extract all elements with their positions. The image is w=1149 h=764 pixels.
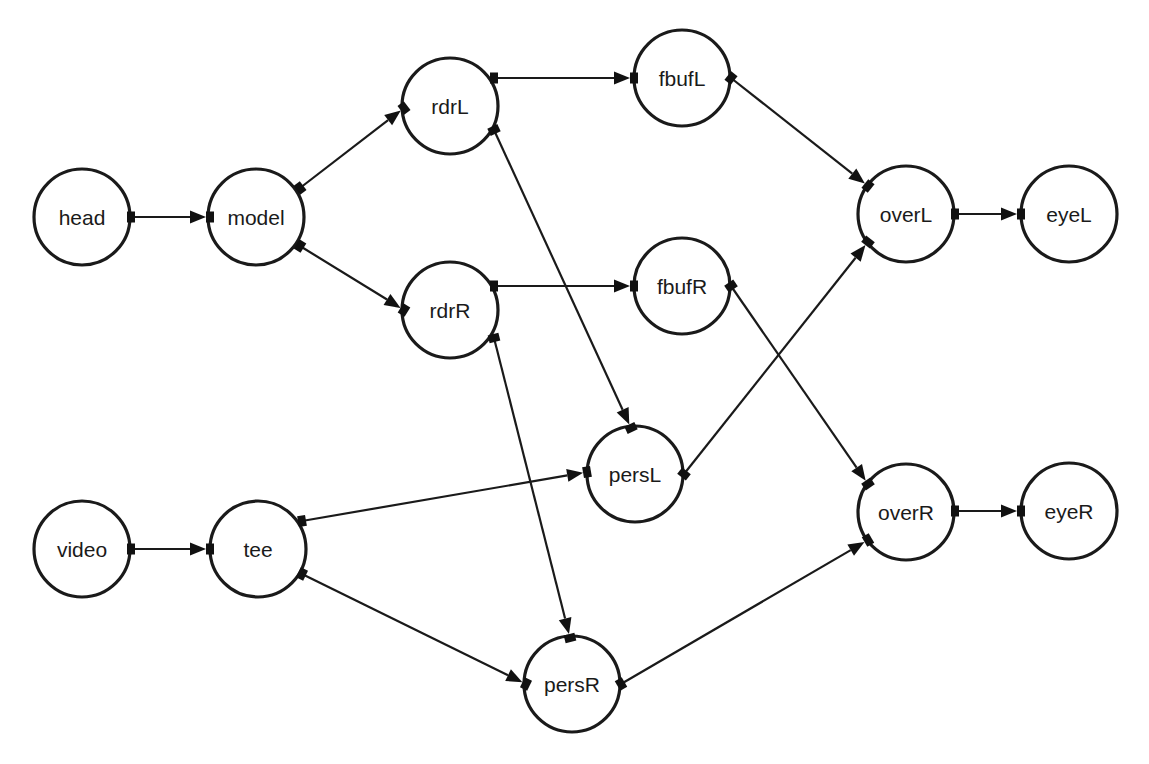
node-persR[interactable]: persR	[524, 636, 620, 732]
node-label: overR	[878, 501, 934, 524]
edge-line	[621, 550, 851, 684]
node-label: eyeL	[1046, 203, 1092, 226]
node-label: overL	[880, 203, 933, 226]
arrowhead-icon	[614, 280, 630, 293]
input-port-tee	[206, 544, 214, 555]
edge-persR-to-overR	[621, 542, 865, 684]
node-overL[interactable]: overL	[858, 166, 954, 262]
edge-tee-to-persL	[302, 469, 583, 521]
arrowhead-icon	[851, 464, 865, 481]
arrowhead-icon	[848, 169, 865, 184]
arrowhead-icon	[847, 542, 864, 556]
output-port-rdrL	[490, 73, 498, 84]
output-port-video	[127, 544, 135, 555]
arrowhead-icon	[617, 407, 630, 424]
arrowhead-icon	[1001, 208, 1017, 221]
arrowhead-icon	[559, 617, 572, 634]
arrowhead-icon	[190, 211, 206, 224]
node-eyeL[interactable]: eyeL	[1021, 166, 1117, 262]
edge-overR-to-eyeR	[955, 505, 1017, 518]
edge-video-to-tee	[131, 543, 206, 556]
edge-line	[731, 78, 852, 174]
edge-fbufL-to-overL	[731, 78, 865, 184]
edge-model-to-rdrR	[300, 246, 401, 308]
edge-line	[494, 130, 623, 410]
node-label: rdrL	[431, 95, 468, 118]
dataflow-diagram: headmodelrdrLrdrRfbufLfbufRpersLpersRove…	[0, 0, 1149, 764]
edge-tee-to-persR	[302, 574, 522, 682]
nodes-layer: headmodelrdrLrdrRfbufLfbufRpersLpersRove…	[34, 30, 1117, 732]
edge-line	[302, 475, 567, 521]
node-label: fbufR	[657, 275, 707, 298]
node-label: fbufL	[659, 67, 706, 90]
edge-line	[300, 246, 387, 300]
node-eyeR[interactable]: eyeR	[1021, 463, 1117, 559]
node-persL[interactable]: persL	[587, 426, 683, 522]
arrowhead-icon	[505, 669, 522, 682]
input-port-model	[206, 212, 214, 223]
arrowhead-icon	[190, 543, 206, 556]
node-label: eyeR	[1044, 500, 1093, 523]
edge-fbufR-to-overR	[731, 286, 866, 481]
node-fbufL[interactable]: fbufL	[634, 30, 730, 126]
node-label: persR	[544, 673, 600, 696]
input-port-eyeL	[1017, 209, 1025, 220]
node-label: model	[227, 206, 284, 229]
node-label: rdrR	[430, 299, 471, 322]
input-port-fbufR	[630, 281, 638, 292]
edge-head-to-model	[131, 211, 206, 224]
node-rdrR[interactable]: rdrR	[402, 262, 498, 358]
edge-line	[300, 120, 388, 188]
edge-rdrR-to-fbufR	[494, 280, 630, 293]
arrowhead-icon	[614, 72, 630, 85]
node-label: head	[59, 206, 106, 229]
edge-overL-to-eyeL	[955, 208, 1017, 221]
node-video[interactable]: video	[34, 501, 130, 597]
output-port-rdrR	[490, 281, 498, 292]
node-fbufR[interactable]: fbufR	[634, 238, 730, 334]
edge-line	[731, 286, 857, 468]
output-port-head	[127, 212, 135, 223]
edge-line	[302, 574, 508, 675]
node-model[interactable]: model	[208, 169, 304, 265]
node-rdrL[interactable]: rdrL	[402, 58, 498, 154]
arrowhead-icon	[566, 469, 583, 482]
edge-rdrL-to-persL	[494, 130, 629, 424]
node-head[interactable]: head	[34, 169, 130, 265]
arrowhead-icon	[384, 110, 401, 125]
node-tee[interactable]: tee	[210, 501, 306, 597]
edge-model-to-rdrL	[300, 110, 401, 188]
node-overR[interactable]: overR	[858, 464, 954, 560]
edge-rdrL-to-fbufL	[494, 72, 630, 85]
arrowhead-icon	[1001, 505, 1017, 518]
input-port-eyeR	[1017, 506, 1025, 517]
arrowhead-icon	[851, 245, 866, 262]
output-port-overR	[951, 506, 959, 517]
arrowhead-icon	[384, 294, 401, 308]
node-label: persL	[609, 463, 662, 486]
node-label: tee	[243, 538, 272, 561]
node-label: video	[57, 538, 107, 561]
output-port-overL	[951, 209, 959, 220]
input-port-fbufL	[630, 73, 638, 84]
